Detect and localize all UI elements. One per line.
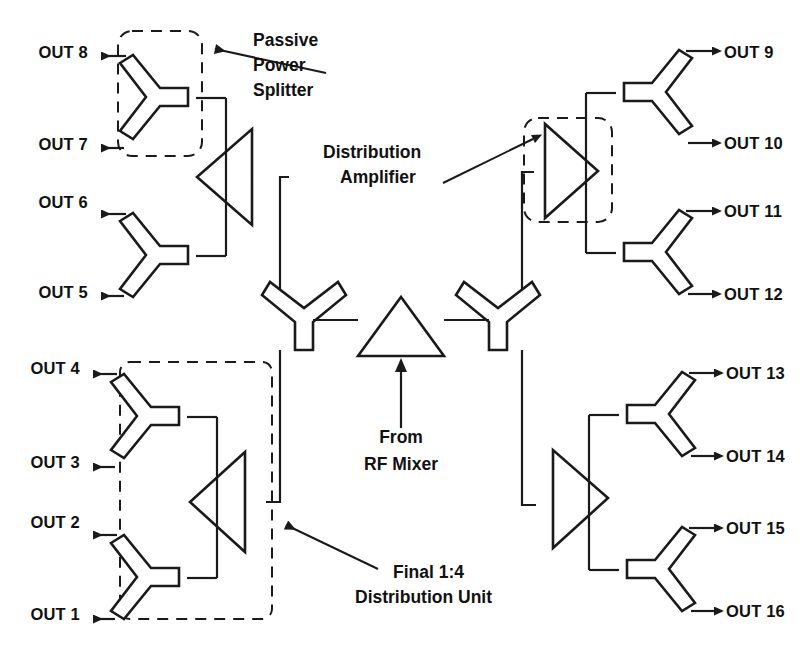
callout-fdu-line-1: Final 1:4 [393,562,464,582]
label-out-3: OUT 3 [30,453,80,471]
label-out-11: OUT 11 [724,202,782,220]
label-out-14: OUT 14 [726,447,786,465]
label-out-13: OUT 13 [726,364,785,382]
rf-distribution-diagram: OUT 8 OUT 7 OUT 6 OUT 5 OUT 4 OUT 3 OUT … [0,0,810,661]
rf-mixer-label-line-1: From [379,427,423,447]
label-out-7: OUT 7 [38,135,88,153]
callout-da-line-1: Distribution [323,142,421,162]
label-out-8: OUT 8 [38,43,88,61]
label-out-12: OUT 12 [724,285,783,303]
label-out-1: OUT 1 [30,605,80,623]
label-out-9: OUT 9 [724,43,774,61]
label-out-6: OUT 6 [38,193,88,211]
label-out-5: OUT 5 [38,283,88,301]
rf-mixer-label-line-2: RF Mixer [364,454,438,474]
callout-pps-line-3: Splitter [253,80,313,100]
callout-pps-line-2: Power [253,55,306,75]
callout-fdu-line-2: Distribution Unit [355,587,492,607]
label-out-4: OUT 4 [30,359,80,377]
label-out-15: OUT 15 [726,519,785,537]
label-out-16: OUT 16 [726,602,785,620]
label-out-10: OUT 10 [724,134,783,152]
label-out-2: OUT 2 [30,513,80,531]
callout-pps-line-1: Passive [253,30,318,50]
callout-da-line-2: Amplifier [340,167,416,187]
